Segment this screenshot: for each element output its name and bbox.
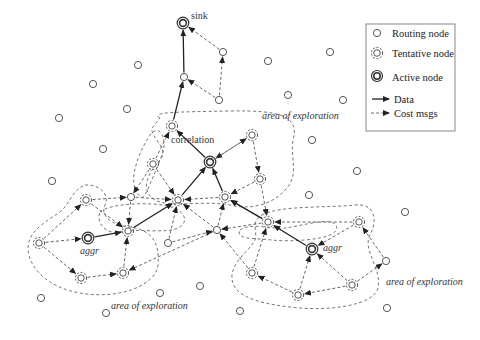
legend-routing-icon [373, 29, 380, 36]
cost-msg-arrow [157, 169, 174, 194]
legend-tentative-icon [374, 50, 381, 57]
routing-node [284, 91, 291, 98]
cost-msg-arrow [169, 207, 176, 239]
cost-msg-arrow [124, 238, 127, 266]
data-arrow [182, 168, 205, 195]
routing-node [89, 80, 96, 87]
data-arrow [134, 204, 172, 228]
cost-msg-arrow [305, 286, 346, 294]
cost-msg-arrow [129, 202, 131, 224]
routing-node [156, 289, 163, 296]
data-arrow [174, 82, 183, 120]
cost-msg-arrow [189, 27, 219, 49]
cost-msg-arrow [185, 197, 218, 199]
tentative-node [246, 267, 257, 278]
cost-msg-arrow [253, 141, 259, 172]
routing-node [134, 61, 141, 68]
tentative-node [117, 267, 128, 278]
cost-msg-arrow [91, 204, 122, 227]
tentative-node [219, 191, 230, 202]
cost-msg-arrow [261, 185, 266, 215]
routing-node [308, 136, 315, 143]
region-mid-loop [134, 131, 164, 198]
aggr-left-label: aggr [80, 245, 99, 256]
routing-node [213, 226, 220, 233]
area-label-top: area of exploration [262, 110, 339, 121]
routing-node [383, 304, 390, 311]
data-arrow [274, 226, 306, 246]
routing-node [127, 193, 134, 200]
tentative-node [346, 279, 357, 290]
tentative-node [33, 237, 44, 248]
routing-node [215, 96, 222, 103]
cost-msg-arrow [172, 231, 212, 242]
routing-node [219, 48, 226, 55]
cost-msg-arrow [129, 232, 212, 270]
active-node [204, 156, 216, 168]
cost-msg-arrow [88, 274, 116, 277]
tentative-node [166, 120, 177, 131]
legend-data-label: Data [394, 94, 414, 105]
tentative-node [353, 216, 364, 227]
legend: Routing node Tentative node Active node … [366, 24, 455, 131]
routing-node [99, 145, 106, 152]
cost-msg-arrow [188, 80, 215, 98]
routing-node [37, 294, 44, 301]
cost-msg-arrow [219, 57, 222, 95]
cost-msg-arrow [93, 197, 126, 199]
cost-msg-arrow [258, 276, 292, 292]
tentative-node [75, 272, 86, 283]
cost-msg-arrow [184, 204, 214, 227]
routing-node [326, 48, 333, 55]
cost-msg-arrow [218, 204, 223, 226]
tentative-node [80, 194, 91, 205]
cost-msg-arrow [44, 205, 81, 239]
cost-msg-arrow [317, 254, 347, 281]
active-node [306, 243, 318, 255]
tentative-node [147, 158, 158, 169]
routing-node [102, 309, 109, 316]
active-node [177, 17, 189, 29]
routing-node [401, 208, 408, 215]
routing-node [339, 96, 346, 103]
data-arrow [231, 201, 262, 219]
tentative-node [254, 173, 265, 184]
sink-label: sink [191, 10, 208, 21]
routing-node [196, 282, 203, 289]
tentative-node [262, 216, 273, 227]
routing-node [305, 191, 312, 198]
data-arrow [95, 232, 121, 237]
routing-node [264, 57, 271, 64]
aggr-right-label: aggr [323, 242, 342, 253]
routing-node [55, 114, 62, 121]
cost-msg-arrow [46, 239, 81, 243]
legend-active-label: Active node [392, 72, 443, 83]
routing-node [123, 105, 130, 112]
nodes [33, 17, 408, 316]
area-label-bottom-left: area of exploration [111, 300, 188, 311]
cost-msg-arrow [300, 256, 310, 289]
routing-node [164, 239, 171, 246]
legend-routing-label: Routing node [392, 28, 449, 39]
tentative-node [292, 289, 303, 300]
cost-msg-arrow [44, 247, 75, 273]
data-arrow [183, 30, 184, 72]
routing-node [180, 73, 187, 80]
active-node [82, 232, 94, 244]
area-label-right: area of exploration [386, 276, 463, 287]
routing-node [236, 307, 243, 314]
tentative-node [246, 129, 257, 140]
routing-diagram: sink correlation aggr aggr area of explo… [0, 0, 480, 340]
cost-msg-arrow [363, 228, 383, 257]
routing-node [48, 177, 55, 184]
routing-node [382, 257, 389, 264]
legend-cost-label: Cost msgs [394, 108, 437, 119]
correlation-label: correlation [171, 134, 214, 145]
cost-msg-arrow [231, 182, 254, 194]
legend-tentative-label: Tentative node [392, 48, 454, 59]
data-arrow [213, 169, 223, 191]
routing-node [353, 167, 360, 174]
cost-msg-arrow [220, 234, 248, 268]
